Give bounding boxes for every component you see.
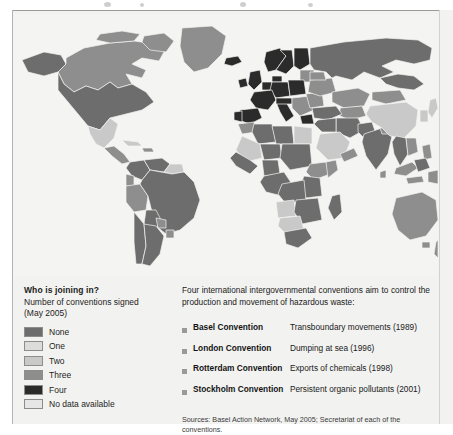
legend-swatch-icon [24, 341, 43, 351]
scan-artifact [104, 2, 111, 7]
sources-line: Sources: Basel Action Network, May 2005;… [182, 415, 430, 435]
frame-rule-right [439, 10, 440, 424]
square-bullet-icon [182, 390, 187, 395]
world-map-svg [14, 14, 438, 276]
square-bullet-icon [182, 328, 187, 333]
country-philippines [422, 144, 432, 160]
legend-subtitle-line2: (May 2005) [24, 308, 174, 319]
frame-rule-left [12, 10, 13, 424]
convention-description: Exports of chemicals (1998) [290, 363, 430, 384]
legend-swatch-icon [24, 385, 43, 395]
figure-caption-panel: Who is joining in? Number of conventions… [14, 278, 438, 418]
legend-items: None One Two Three Four [24, 325, 174, 411]
country-denmark [272, 76, 282, 82]
legend-swatch-icon [24, 356, 43, 366]
bullet-cell [182, 343, 193, 364]
convention-description: Persistent organic pollutants (2001) [290, 384, 430, 405]
legend-item-label: One [49, 341, 65, 351]
caption-text-block: Four international intergovernmental con… [182, 285, 430, 435]
legend-item-label: Three [49, 370, 71, 380]
square-bullet-icon [182, 349, 187, 354]
legend-swatch-icon [24, 327, 43, 337]
country-angola [276, 200, 296, 218]
legend-item-none: None [24, 325, 174, 338]
scan-artifact [140, 3, 144, 7]
country-uruguay [166, 230, 174, 238]
legend-item-label: None [49, 327, 69, 337]
legend-item-one: One [24, 340, 174, 353]
bullet-cell [182, 384, 193, 405]
table-row: London Convention Dumping at sea (1996) [182, 343, 430, 364]
intro-paragraph: Four international intergovernmental con… [182, 285, 430, 308]
legend-item-three: Three [24, 369, 174, 382]
country-mali-niger [260, 144, 282, 160]
bullet-cell [182, 363, 193, 384]
country-tasmania [422, 242, 430, 248]
convention-description: Dumping at sea (1996) [290, 343, 430, 364]
square-bullet-icon [182, 369, 187, 374]
country-ecuador [126, 174, 134, 186]
table-row: Basel Convention Transboundary movements… [182, 322, 430, 343]
country-egypt [294, 126, 312, 144]
table-row: Rotterdam Convention Exports of chemical… [182, 363, 430, 384]
legend-item-label: Four [49, 385, 66, 395]
convention-name: London Convention [193, 343, 290, 364]
scan-artifact [308, 3, 313, 7]
convention-description: Transboundary movements (1989) [290, 322, 430, 343]
country-kazakhstan [332, 88, 370, 108]
legend-item-no-data: No data available [24, 398, 174, 411]
legend-subtitle-line1: Number of conventions signed [24, 297, 174, 308]
convention-name: Basel Convention [193, 322, 290, 343]
convention-name: Stockholm Convention [193, 384, 290, 405]
legend-swatch-icon [24, 370, 43, 380]
legend-item-label: Two [49, 356, 65, 366]
convention-name: Rotterdam Convention [193, 363, 290, 384]
country-korea [420, 110, 428, 122]
country-libya [272, 126, 294, 144]
world-map [14, 14, 438, 276]
legend-title: Who is joining in? [24, 285, 174, 296]
conventions-table: Basel Convention Transboundary movements… [182, 322, 430, 404]
legend-swatch-icon [24, 399, 43, 409]
bullet-cell [182, 322, 193, 343]
table-row: Stockholm Convention Persistent organic … [182, 384, 430, 405]
country-alpine-states [276, 98, 292, 104]
legend-item-four: Four [24, 383, 174, 396]
map-legend: Who is joining in? Number of conventions… [24, 285, 174, 412]
country-poland [288, 80, 306, 96]
frame-rule-top [12, 10, 440, 11]
country-belarus [310, 72, 326, 80]
country-portugal [234, 111, 242, 122]
country-ireland [238, 78, 248, 88]
scan-artifact [240, 2, 246, 7]
legend-item-label: No data available [49, 399, 115, 409]
legend-item-two: Two [24, 354, 174, 367]
country-hispaniola [142, 148, 154, 152]
country-new-guinea [428, 170, 438, 184]
country-greece [300, 114, 314, 124]
country-paraguay [156, 218, 166, 228]
